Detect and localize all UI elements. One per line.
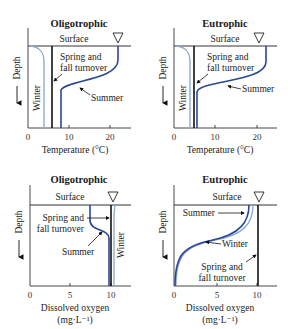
summer-label: Summer: [62, 247, 95, 257]
panel-oligotrophic-temperature: Oligotrophic Surface 0 10 20 Temperature…: [12, 18, 131, 156]
panel-eutrophic-temperature: Eutrophic Surface 0 10 20 Temperature (°…: [158, 18, 277, 156]
tick-label: 10: [65, 132, 75, 142]
winter-curve: [114, 205, 115, 286]
x-axis-units: (mg·L⁻¹): [57, 315, 92, 326]
water-level-triangle-icon: [254, 192, 264, 202]
y-axis-label: Depth: [158, 210, 168, 233]
winter-label: Winter: [178, 84, 188, 111]
tick-label: 0: [26, 132, 31, 142]
tick-label: 10: [211, 132, 221, 142]
spring-label-2: fall turnover: [198, 273, 246, 283]
x-axis-label: Temperature (°C): [187, 145, 254, 156]
tick-label: 0: [28, 290, 33, 300]
summer-curve: [90, 205, 109, 286]
surface-label: Surface: [55, 192, 84, 202]
tick-label: 20: [253, 132, 263, 142]
panel-title: Oligotrophic: [51, 18, 108, 29]
surface-label: Surface: [210, 34, 239, 44]
spring-label-2: fall turnover: [37, 224, 85, 234]
water-level-triangle-icon: [254, 33, 264, 43]
winter-label: Winter: [116, 231, 126, 258]
tick-label: 0: [172, 290, 177, 300]
y-axis-label: Depth: [12, 56, 22, 79]
surface-label: Surface: [212, 192, 241, 202]
spring-label: Spring and: [201, 262, 243, 272]
water-level-triangle-icon: [113, 33, 123, 43]
spring-label: Spring and: [207, 52, 249, 62]
panel-title: Eutrophic: [202, 174, 248, 185]
tick-label: 20: [106, 132, 116, 142]
x-axis-label: Temperature (°C): [42, 145, 109, 156]
surface-label: Surface: [59, 34, 88, 44]
lake-profile-figure: Oligotrophic Surface 0 10 20 Temperature…: [0, 0, 290, 329]
x-axis-label: Dissolved oxygen: [41, 303, 110, 313]
x-axis-units: (mg·L⁻¹): [202, 315, 237, 326]
tick-label: 5: [215, 290, 220, 300]
summer-label: Summer: [183, 208, 216, 218]
summer-label: Summer: [242, 84, 275, 94]
winter-label: Winter: [222, 239, 249, 249]
spring-label: Spring and: [60, 52, 102, 62]
x-axis-label: Dissolved oxygen: [186, 303, 255, 313]
tick-label: 5: [68, 290, 73, 300]
spring-label-2: fall turnover: [60, 63, 108, 73]
panel-title: Eutrophic: [202, 18, 248, 29]
winter-label: Winter: [32, 84, 42, 111]
spring-label: Spring and: [43, 213, 85, 223]
tick-label: 10: [107, 290, 117, 300]
tick-label: 10: [253, 290, 263, 300]
tick-label: 0: [172, 132, 177, 142]
y-axis-label: Depth: [14, 210, 24, 233]
panel-title: Oligotrophic: [51, 174, 108, 185]
panel-oligotrophic-oxygen: Oligotrophic Surface 0 5 10 Dissolved ox…: [14, 174, 131, 326]
water-level-triangle-icon: [108, 192, 118, 202]
spring-label-2: fall turnover: [207, 63, 255, 73]
panel-eutrophic-oxygen: Eutrophic Surface 0 5 10 Dissolved oxyge…: [158, 174, 277, 326]
y-axis-label: Depth: [158, 56, 168, 79]
summer-label: Summer: [91, 93, 124, 103]
